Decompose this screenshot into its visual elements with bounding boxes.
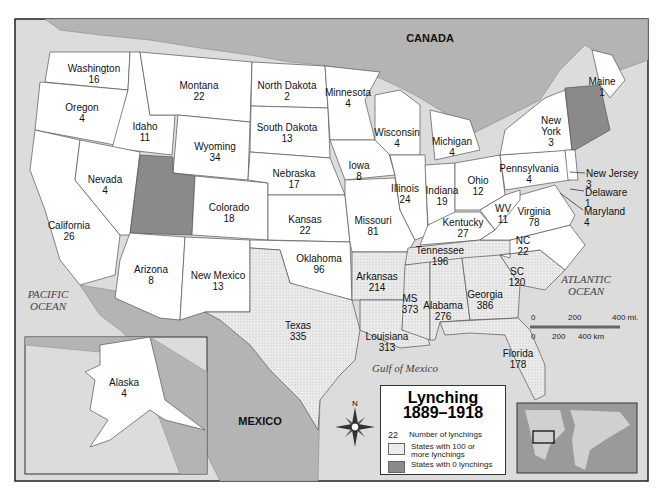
map-title: Lynching [381, 390, 505, 405]
label-texas: Texas335 [285, 320, 311, 342]
label-kansas: Kansas22 [288, 214, 321, 236]
label-tennessee: Tennessee196 [416, 245, 464, 267]
atlantic-line-1: ATLANTIC [561, 273, 611, 285]
label-illinois: Illinois24 [391, 183, 419, 205]
legend-number-label: Number of lynchings [409, 431, 482, 439]
scale-km-400: 400 km [578, 332, 604, 341]
pacific-line-1: PACIFIC [28, 288, 69, 300]
label-north-carolina: NC22 [516, 235, 530, 257]
label-michigan: Michigan4 [432, 136, 472, 158]
label-virginia: Virginia78 [517, 206, 550, 228]
legend-row-number: 22 Number of lynchings [388, 431, 482, 439]
label-kentucky: Kentucky27 [442, 217, 483, 239]
label-missouri: Missouri81 [354, 215, 391, 237]
label-canada: CANADA [406, 32, 454, 44]
label-mississippi: MS373 [402, 293, 419, 315]
legend-row-zero: States with 0 lynchings [388, 461, 492, 473]
label-new-york: New York3 [536, 115, 566, 148]
label-nebraska: Nebraska17 [273, 168, 316, 190]
label-north-dakota: North Dakota2 [258, 80, 317, 102]
label-south-carolina: SC120 [509, 266, 526, 288]
label-montana: Montana22 [180, 80, 219, 102]
label-new-mexico: New Mexico13 [191, 270, 245, 292]
label-ohio: Ohio12 [467, 175, 488, 197]
label-alaska: Alaska4 [109, 377, 139, 399]
label-colorado: Colorado18 [209, 202, 250, 224]
label-west-virginia: WV11 [495, 203, 511, 225]
label-atlantic-ocean: ATLANTICOCEAN [561, 273, 611, 297]
legend-swatch-dotted [388, 443, 405, 455]
scale-mi-0: 0 [531, 313, 535, 322]
scale-mi-200: 200 [568, 313, 581, 322]
label-pacific-ocean: PACIFICOCEAN [28, 288, 69, 312]
label-arizona: Arizona8 [134, 264, 168, 286]
label-maine: Maine1 [588, 76, 615, 98]
label-indiana: Indiana19 [426, 185, 459, 207]
scale-km-0: 0 [531, 332, 535, 341]
legend-box: Lynching 1889–1918 22 Number of lynching… [380, 385, 506, 475]
scale-km-200: 200 [552, 332, 565, 341]
label-minnesota: Minnesota4 [325, 87, 371, 109]
label-south-dakota: South Dakota13 [257, 122, 318, 144]
scale-mi-400: 400 mi. [612, 313, 638, 322]
label-pennsylvania: Pennsylvania4 [499, 163, 558, 185]
label-california: California26 [48, 220, 90, 242]
map-subtitle: 1889–1918 [381, 405, 505, 420]
legend-zero-label: States with 0 lynchings [411, 461, 492, 469]
label-iowa: Iowa8 [348, 160, 369, 182]
label-wyoming: Wyoming34 [194, 141, 236, 163]
label-oregon: Oregon4 [65, 102, 98, 124]
legend-title: Lynching 1889–1918 [381, 390, 505, 420]
label-oklahoma: Oklahoma96 [296, 253, 342, 275]
label-maryland: Maryland4 [584, 206, 625, 228]
label-mexico: MEXICO [238, 415, 281, 427]
label-gulf-of-mexico: Gulf of Mexico [372, 362, 438, 374]
legend-row-high: States with 100 ormore lynchings [388, 443, 475, 459]
label-alabama: Alabama276 [423, 300, 462, 322]
label-louisiana: Louisiana313 [366, 331, 409, 353]
label-idaho: Idaho11 [132, 121, 157, 143]
label-washington: Washington16 [68, 63, 120, 85]
label-wisconsin: Wisconsin4 [374, 127, 420, 149]
pacific-line-2: OCEAN [30, 300, 66, 312]
legend-high-label: States with 100 ormore lynchings [411, 443, 475, 459]
compass-north-label: N [352, 398, 358, 409]
label-arkansas: Arkansas214 [356, 271, 398, 293]
label-nevada: Nevada4 [88, 174, 122, 196]
atlantic-line-2: OCEAN [568, 285, 604, 297]
legend-swatch-dark [388, 461, 405, 473]
legend-number-sample: 22 [388, 431, 403, 439]
label-florida: Florida178 [503, 348, 534, 370]
label-georgia: Georgia386 [467, 289, 503, 311]
